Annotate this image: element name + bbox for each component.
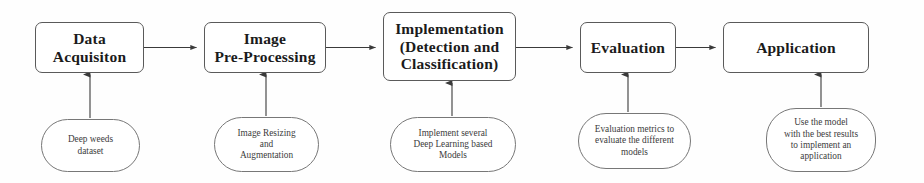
- methodology-flowchart: Data Acquisiton Image Pre-Processing Imp…: [0, 0, 924, 183]
- note-pill-application: Use the model with the best results to i…: [766, 108, 876, 172]
- note-label-implementation: Implement several Deep Learning based Mo…: [391, 128, 515, 162]
- note-pill-evaluation: Evaluation metrics to evaluate the diffe…: [578, 113, 691, 169]
- note-label-application: Use the model with the best results to i…: [767, 117, 875, 162]
- stage-box-evaluation: Evaluation: [580, 22, 676, 73]
- stage-box-application: Application: [723, 22, 869, 73]
- note-pill-image-pre-processing: Image Resizing and Augmentation: [214, 117, 319, 172]
- note-label-evaluation: Evaluation metrics to evaluate the diffe…: [579, 124, 690, 158]
- stage-box-image-pre-processing: Image Pre-Processing: [204, 22, 326, 73]
- note-label-data-acquisition: Deep weeds dataset: [42, 134, 139, 157]
- stage-label-evaluation: Evaluation: [581, 39, 675, 56]
- stage-label-data-acquisition: Data Acquisiton: [36, 30, 143, 65]
- note-pill-data-acquisition: Deep weeds dataset: [41, 119, 140, 172]
- stage-label-application: Application: [724, 39, 868, 56]
- note-label-image-pre-processing: Image Resizing and Augmentation: [215, 128, 318, 162]
- stage-box-data-acquisition: Data Acquisiton: [35, 22, 144, 73]
- note-pill-implementation: Implement several Deep Learning based Mo…: [390, 117, 516, 172]
- stage-label-image-pre-processing: Image Pre-Processing: [205, 30, 325, 65]
- stage-label-implementation: Implementation (Detection and Classifica…: [384, 20, 515, 72]
- stage-box-implementation: Implementation (Detection and Classifica…: [383, 12, 516, 81]
